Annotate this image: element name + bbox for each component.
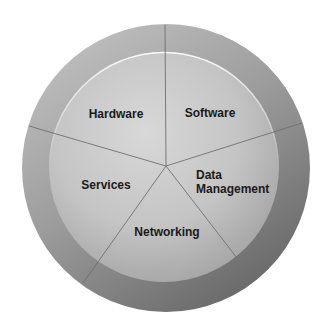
segmented-circle-diagram: Hardware Software Data Management Networ… — [0, 0, 329, 325]
segment-label-data-management-line2: Management — [196, 182, 269, 196]
segment-label-data-management-line1: Data — [196, 168, 222, 182]
segment-label-networking: Networking — [134, 225, 199, 239]
segment-label-software: Software — [185, 106, 236, 120]
segment-label-hardware: Hardware — [89, 107, 144, 121]
segment-label-services: Services — [81, 178, 131, 192]
